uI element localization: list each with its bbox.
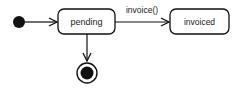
final-state-node: [77, 63, 97, 83]
state-invoiced[interactable]: invoiced: [170, 9, 229, 34]
initial-state-node: [13, 16, 25, 28]
state-diagram: pending invoice() invoiced: [0, 0, 242, 93]
state-pending-label: pending: [70, 17, 102, 27]
state-pending[interactable]: pending: [58, 9, 115, 34]
transition-label-invoice: invoice(): [126, 5, 158, 15]
state-invoiced-label: invoiced: [184, 17, 215, 27]
